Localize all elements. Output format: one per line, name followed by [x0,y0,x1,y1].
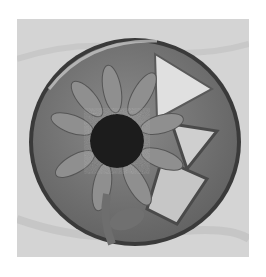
sunflower-center [90,114,144,168]
photograph [17,19,249,257]
paperweight-illustration [17,19,249,257]
